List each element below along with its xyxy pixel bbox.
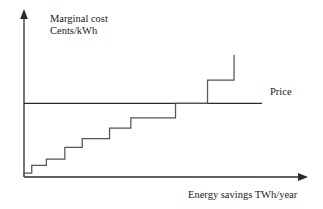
y-axis-label-line1: Marginal cost [50,13,108,24]
step-curve [24,55,235,177]
x-axis-label: Energy savings TWh/year [188,189,297,201]
price-label: Price [270,86,292,98]
x-axis-arrow-icon [298,173,308,181]
marginal-cost-step-chart [0,0,323,209]
chart-figure: Marginal cost Cents/kWh Energy savings T… [0,0,323,209]
y-axis-arrow-icon [20,9,28,19]
y-axis-label-line2: Cents/kWh [50,25,108,37]
y-axis-label: Marginal cost Cents/kWh [50,13,108,38]
